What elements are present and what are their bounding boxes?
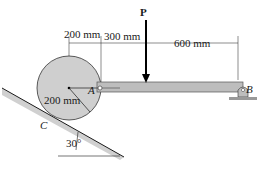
point-b-label: B [246, 83, 253, 95]
dim-mid-label: 300 mm [104, 30, 141, 42]
point-a-label: A [87, 84, 95, 96]
ground-b [229, 97, 257, 100]
diagram-canvas: P 200 mm 300 mm 600 mm 200 mm A B C 30° [0, 0, 264, 173]
dim-left-label: 200 mm [64, 28, 101, 40]
dim-right-label: 600 mm [174, 37, 211, 49]
pin-b [241, 88, 244, 91]
pin-a [98, 86, 102, 90]
angle-label: 30° [66, 137, 81, 149]
point-c-label: C [40, 119, 48, 131]
beam [97, 82, 243, 92]
load-label: P [140, 6, 147, 18]
radius-label: 200 mm [44, 94, 81, 106]
